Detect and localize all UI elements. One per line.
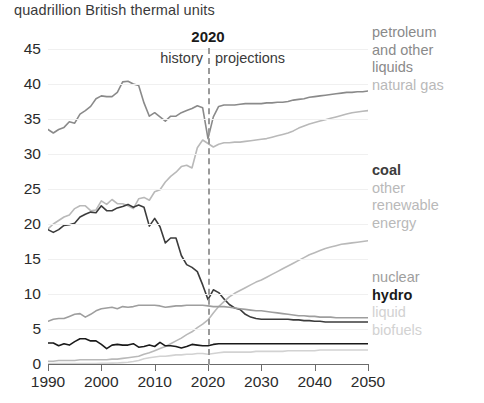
- y-axis-tick-label: 35: [24, 110, 41, 128]
- y-axis-tick-label: 20: [24, 215, 41, 233]
- x-axis-tick-label: 2040: [297, 373, 331, 391]
- legend-renewable-line3: energy: [372, 215, 439, 233]
- divider-year-label: 2020: [191, 28, 224, 45]
- legend-group-lower: nuclear hydro liquid biofuels: [372, 269, 422, 339]
- legend-group-upper: petroleum and other liquids natural gas: [372, 24, 444, 94]
- y-axis-tick-label: 10: [24, 285, 41, 303]
- x-axis-tick-label: 2050: [351, 373, 385, 391]
- x-axis-tick-label: 2000: [84, 373, 118, 391]
- history-projection-divider: [208, 48, 210, 365]
- legend-biofuels-line2: biofuels: [372, 322, 422, 340]
- y-axis-tick-label: 40: [24, 75, 41, 93]
- legend-petroleum-line1: petroleum: [372, 24, 444, 42]
- legend-group-middle: coal other renewable energy: [372, 162, 439, 232]
- x-axis-tick-label: 2010: [137, 373, 171, 391]
- legend-renewable-line2: renewable: [372, 197, 439, 215]
- legend-petroleum-line2: and other: [372, 42, 444, 60]
- legend-biofuels-line1: liquid: [372, 304, 422, 322]
- legend-hydro: hydro: [372, 287, 422, 305]
- legend-petroleum-line3: liquids: [372, 59, 444, 77]
- y-axis-tick-label: 5: [32, 320, 41, 338]
- legend-renewable-line1: other: [372, 180, 439, 198]
- x-axis-tick-mark: [261, 364, 262, 371]
- x-axis-tick-mark: [208, 364, 209, 371]
- x-axis-tick-label: 2030: [244, 373, 278, 391]
- y-axis-tick-label: 25: [24, 180, 41, 198]
- y-axis-tick-label: 15: [24, 250, 41, 268]
- chart-title: quadrillion British thermal units: [14, 2, 215, 18]
- x-axis-tick-mark: [155, 364, 156, 371]
- x-axis-tick-mark: [48, 364, 49, 371]
- x-axis-tick-label: 1990: [31, 373, 65, 391]
- x-axis-tick-mark: [368, 364, 369, 371]
- legend-natural-gas: natural gas: [372, 77, 444, 95]
- legend-coal: coal: [372, 162, 439, 180]
- y-axis-tick-label: 45: [24, 40, 41, 58]
- x-axis-tick-mark: [101, 364, 102, 371]
- projections-label: projections: [215, 50, 285, 66]
- x-axis-tick-label: 2020: [191, 373, 225, 391]
- x-axis-tick-mark: [315, 364, 316, 371]
- y-axis-tick-label: 0: [32, 355, 41, 373]
- legend-nuclear: nuclear: [372, 269, 422, 287]
- chart-container: quadrillion British thermal units 051015…: [0, 0, 484, 403]
- history-label: history: [160, 50, 203, 66]
- y-axis-tick-label: 30: [24, 145, 41, 163]
